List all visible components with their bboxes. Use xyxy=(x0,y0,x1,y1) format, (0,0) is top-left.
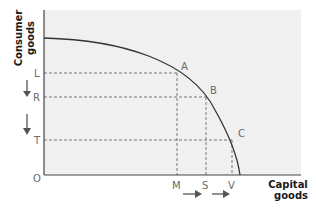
point-C: C xyxy=(238,128,245,139)
tick-S: S xyxy=(202,180,208,191)
point-B: B xyxy=(210,85,217,96)
tick-R: R xyxy=(33,92,40,103)
x-axis-title-1: Capital xyxy=(268,179,308,190)
tick-T: T xyxy=(33,135,41,146)
right-arrow-icon xyxy=(212,190,230,198)
down-arrow-icon xyxy=(23,114,31,135)
point-A: A xyxy=(181,61,188,72)
origin-label: O xyxy=(33,173,41,184)
tick-M: M xyxy=(172,180,181,191)
y-axis-title-2: goods xyxy=(25,21,36,55)
tick-L: L xyxy=(34,68,40,79)
right-arrow-icon xyxy=(183,190,202,198)
plot-area xyxy=(44,10,301,175)
ppc-diagram: Consumer goods L R T O M S V A B C Capit… xyxy=(0,0,316,213)
y-axis-title-1: Consumer xyxy=(13,10,24,67)
x-axis-title-2: goods xyxy=(274,190,308,201)
down-arrow-icon xyxy=(23,80,31,97)
tick-V: V xyxy=(228,180,235,191)
